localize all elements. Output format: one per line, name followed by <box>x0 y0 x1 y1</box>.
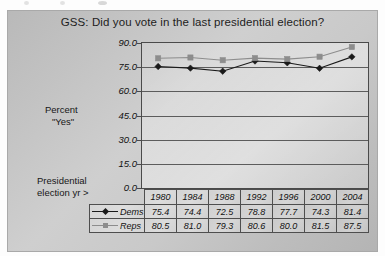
legend-label: Reps <box>120 221 141 231</box>
y-axis-tick-label: 90.0 <box>77 37 137 48</box>
table-cell-reps-1984: 81.0 <box>176 219 208 233</box>
data-point-reps-2004 <box>349 44 354 49</box>
table-cell-dems-2000: 74.3 <box>304 205 336 219</box>
table-cell-dems-2004: 81.4 <box>336 205 368 219</box>
legend-label: Dems <box>120 207 144 217</box>
table-cell-dems-1984: 74.4 <box>176 205 208 219</box>
table-cell-dems-1980: 75.4 <box>144 205 176 219</box>
table-cell-reps-1988: 79.3 <box>208 219 240 233</box>
table-cell-dems-1996: 77.7 <box>272 205 304 219</box>
table-cell-reps-1996: 80.0 <box>272 219 304 233</box>
table-row: Dems75.474.472.578.877.774.381.4 <box>90 205 369 219</box>
table-cell-reps-2000: 81.5 <box>304 219 336 233</box>
data-point-dems-2000 <box>316 65 322 71</box>
table-cell-dems-1988: 72.5 <box>208 205 240 219</box>
y-axis-tick-label: 15.0 <box>77 158 137 169</box>
plot-area <box>141 42 369 189</box>
data-point-reps-1996 <box>285 57 290 62</box>
table-cell-reps-1980: 80.5 <box>144 219 176 233</box>
scan-artifact-speck <box>98 1 107 5</box>
chart-figure: GSS: Did you vote in the last presidenti… <box>7 10 378 252</box>
y-axis-tick-label: 75.0 <box>77 61 137 72</box>
data-point-reps-2000 <box>317 54 322 59</box>
scan-artifact-speck <box>60 1 65 5</box>
table-corner-cell <box>90 190 145 205</box>
legend-square-marker-icon <box>92 220 118 231</box>
chart-title: GSS: Did you vote in the last presidenti… <box>7 16 378 28</box>
table-cell-reps-2004: 87.5 <box>336 219 368 233</box>
table-header-year: 2000 <box>304 190 336 205</box>
table-row: 1980198419881992199620002004 <box>90 190 369 205</box>
table-header-year: 1996 <box>272 190 304 205</box>
series-layer <box>142 43 368 188</box>
plot-region: 0.015.030.045.060.075.090.0 <box>141 42 369 189</box>
legend-entry-reps: Reps <box>90 219 145 233</box>
y-axis-tick-label: 45.0 <box>77 110 137 121</box>
table-cell-reps-1992: 80.6 <box>240 219 272 233</box>
scan-artifact-speck <box>24 1 29 5</box>
table-header-year: 1988 <box>208 190 240 205</box>
y-axis-caption-line2: "Yes" <box>45 116 78 128</box>
y-axis-tick-label: 60.0 <box>77 85 137 96</box>
table-header-year: 2004 <box>336 190 368 205</box>
y-axis-caption-line1: Percent <box>45 104 78 115</box>
table-header-year: 1984 <box>176 190 208 205</box>
data-point-reps-1980 <box>156 56 161 61</box>
table-header-year: 1992 <box>240 190 272 205</box>
data-point-dems-1980 <box>155 63 161 69</box>
table-header-year: 1980 <box>144 190 176 205</box>
data-point-reps-1992 <box>252 56 257 61</box>
table-row: Reps80.581.079.380.680.081.587.5 <box>90 219 369 233</box>
data-point-reps-1984 <box>188 55 193 60</box>
data-table: 1980198419881992199620002004Dems75.474.4… <box>89 189 369 233</box>
data-point-dems-2004 <box>349 54 355 60</box>
y-axis-caption: Percent "Yes" <box>45 104 78 127</box>
data-point-dems-1988 <box>220 68 226 74</box>
table-cell-dems-1992: 78.8 <box>240 205 272 219</box>
y-axis-tick-label: 30.0 <box>77 134 137 145</box>
legend-entry-dems: Dems <box>90 205 145 219</box>
legend-diamond-marker-icon <box>92 206 118 217</box>
data-point-dems-1984 <box>187 65 193 71</box>
data-point-reps-1988 <box>220 58 225 63</box>
